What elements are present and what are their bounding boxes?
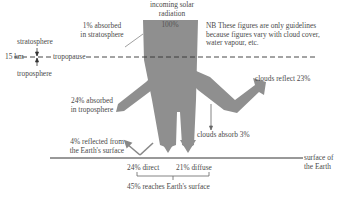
clouds-reflect-label: clouds reflect 23% [255,75,310,84]
diffuse-label: 21% diffuse [176,164,212,173]
surface-reflected-label: 4% reflected from the Earth's surface [62,138,124,155]
direct-label: 24% direct [127,164,159,173]
reflected-line2: the Earth's surface [62,147,124,156]
tropopause-label: tropopause [52,53,86,62]
height-label: 15 km [5,53,24,62]
trop-line2: in troposphere [62,106,122,115]
surface-line2: the Earth [304,163,333,172]
surface-bracket [137,172,209,180]
strat-line2: in stratosphere [72,31,132,40]
reaches-surface-label: 45% reaches Earth's surface [127,183,210,192]
note-line3: water vapour, etc. [206,39,320,48]
stratosphere-absorbed-label: 1% absorbed in stratosphere [72,22,132,39]
troposphere-label: troposphere [17,70,52,79]
surface-reflection-arrows [125,141,153,155]
troposphere-absorbed-label: 24% absorbed in troposphere [62,97,122,114]
incoming-line2: radiation [140,10,204,19]
clouds-absorb-arrow [210,104,213,130]
stratosphere-label: stratosphere [17,38,53,47]
clouds-absorb-label: clouds absorb 3% [197,131,250,140]
surface-of-earth-label: surface of the Earth [304,154,333,171]
incoming-radiation-label: incoming solar radiation [140,1,204,18]
incoming-value: 100% [150,21,190,30]
nb-note: NB These figures are only guidelines bec… [206,22,320,48]
